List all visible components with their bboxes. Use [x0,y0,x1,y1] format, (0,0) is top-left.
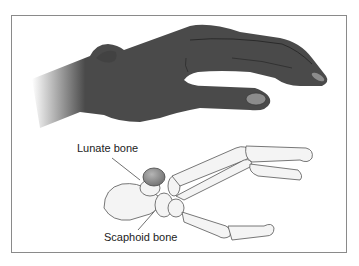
lunate-bone [143,168,165,186]
lunate-leader-line [112,158,140,180]
hand-silhouette [32,25,327,128]
hand-illustration [0,0,359,266]
wrist-bones [104,146,312,240]
thumbnail [246,93,266,105]
scaphoid-bone-label: Scaphoid bone [104,231,177,243]
lunate-bone-label: Lunate bone [77,142,138,154]
